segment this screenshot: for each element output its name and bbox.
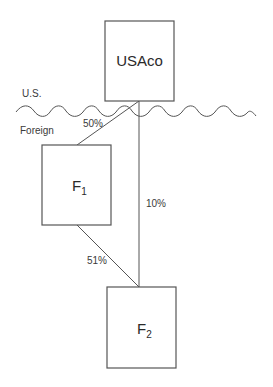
border-wave-line	[16, 106, 256, 117]
foreign-region-label: Foreign	[20, 125, 54, 136]
percent-f1-f2: 51%	[87, 255, 107, 266]
entity-usaco: USAco	[105, 21, 174, 101]
entity-f2-name: F	[137, 320, 146, 337]
entity-f2-subscript: 2	[146, 329, 152, 340]
percent-usaco-f1: 50%	[83, 118, 103, 129]
entity-f1: F1	[42, 145, 111, 225]
ownership-diagram: U.S. Foreign 50% 10% 51% USAco F1 F2	[0, 0, 273, 387]
entity-f1-name: F	[72, 177, 81, 194]
percent-usaco-f2: 10%	[146, 198, 166, 209]
entity-f1-subscript: 1	[81, 186, 87, 197]
us-region-label: U.S.	[22, 88, 41, 99]
entity-f2: F2	[107, 287, 176, 368]
entity-usaco-label: USAco	[116, 52, 163, 69]
